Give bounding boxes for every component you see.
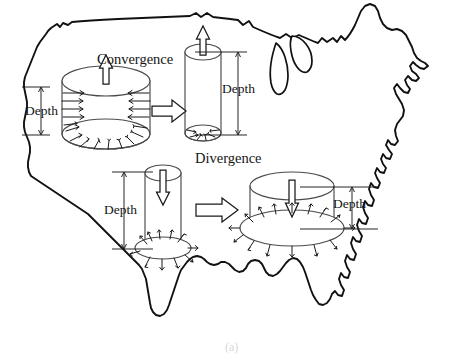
depth-label-panel-1: Depth (25, 104, 58, 118)
figure-caption: (a) (225, 341, 238, 353)
figure-canvas (0, 0, 469, 357)
divergence-label: Divergence (195, 151, 262, 166)
figure-container: Convergence Divergence Depth Depth Depth… (0, 0, 469, 357)
depth-label-panel-2: Depth (222, 82, 255, 96)
depth-label-panel-3: Depth (104, 203, 137, 217)
convergence-label: Convergence (97, 52, 173, 67)
depth-label-panel-4: Depth (333, 197, 366, 211)
